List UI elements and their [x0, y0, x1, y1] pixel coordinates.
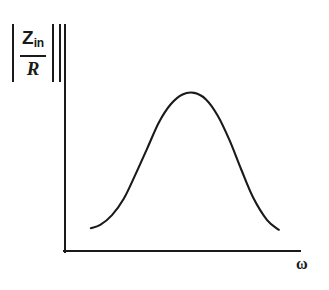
x-axis-label: ω	[296, 256, 308, 272]
response-curve	[91, 93, 279, 230]
figure-container: Zin R ω	[0, 0, 329, 290]
plot-area	[0, 0, 329, 290]
